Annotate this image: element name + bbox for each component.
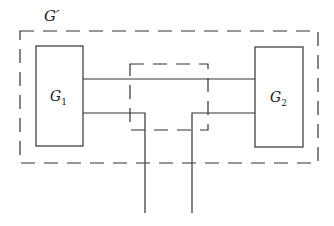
- diagram-canvas: [0, 0, 334, 226]
- outer-label: G′: [44, 7, 59, 25]
- right-port-line: [192, 113, 255, 213]
- inner-dashed-boundary: [130, 64, 208, 130]
- g2-label: G2: [270, 89, 287, 108]
- g1-label: G1: [50, 88, 67, 107]
